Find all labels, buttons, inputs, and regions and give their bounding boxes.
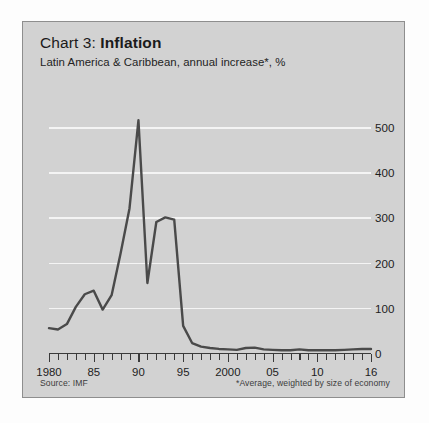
x-tick-2005 [273,354,274,362]
x-tick-1986 [103,354,104,360]
x-tick-1998 [210,354,211,360]
x-tick-2010 [317,354,318,362]
y-axis: 0100200300400500 [375,109,427,359]
y-tick-label-500: 500 [375,121,394,134]
x-tick-1983 [76,354,77,360]
x-tick-label-1985: 85 [87,366,100,378]
average-note: *Average, weighted by size of economy [236,378,390,388]
x-tick-1981 [58,354,59,360]
x-tick-1982 [67,354,68,360]
x-tick-2008 [299,354,300,360]
x-tick-label-2005: 05 [266,366,279,378]
footnotes: Source: IMF *Average, weighted by size o… [40,378,390,388]
chart-header: Chart 3: Inflation Latin America & Carib… [40,34,390,68]
x-tick-1992 [156,354,157,360]
x-tick-2015 [362,354,363,360]
x-tick-2003 [255,354,256,360]
y-tick-label-100: 100 [375,301,394,314]
x-tick-1993 [165,354,166,360]
x-tick-1995 [183,354,184,362]
x-tick-1989 [130,354,131,360]
x-tick-1997 [201,354,202,360]
y-tick-label-0: 0 [375,347,381,360]
chart-card: Chart 3: Inflation Latin America & Carib… [22,21,405,398]
x-tick-2011 [326,354,327,360]
x-tick-1988 [121,354,122,360]
x-tick-1990 [138,354,139,362]
x-tick-label-1995: 95 [177,366,190,378]
x-tick-2013 [344,354,345,360]
x-tick-2016 [371,354,372,362]
x-tick-1980 [49,354,50,362]
chart-subtitle: Latin America & Caribbean, annual increa… [40,56,390,68]
x-tick-1985 [94,354,95,362]
x-tick-2004 [264,354,265,360]
x-tick-label-2016: 16 [365,366,378,378]
page-title: Chart 3: Inflation [40,34,390,52]
y-tick-label-400: 400 [375,166,394,179]
plot-area [49,109,371,353]
x-tick-label-1980: 1980 [36,366,61,378]
x-tick-label-2010: 10 [311,366,324,378]
series-line-chart [49,109,371,353]
y-tick-label-200: 200 [375,256,394,269]
x-tick-1994 [174,354,175,360]
x-tick-2006 [282,354,283,360]
x-tick-label-2000: 2000 [215,366,240,378]
x-tick-1991 [147,354,148,360]
x-tick-1999 [219,354,220,360]
x-tick-1984 [85,354,86,360]
source-note: Source: IMF [40,378,88,388]
x-tick-2014 [353,354,354,360]
x-tick-2001 [237,354,238,360]
inflation-series-line [49,120,371,350]
x-tick-2000 [228,354,229,362]
chart-title-strong: Inflation [100,34,161,51]
x-tick-1987 [112,354,113,360]
y-tick-label-300: 300 [375,211,394,224]
x-tick-2009 [308,354,309,360]
chart-title-prefix: Chart 3: [40,34,100,51]
x-tick-2002 [246,354,247,360]
x-tick-2007 [291,354,292,360]
x-tick-1996 [192,354,193,360]
x-tick-label-1990: 90 [132,366,145,378]
x-tick-2012 [335,354,336,360]
